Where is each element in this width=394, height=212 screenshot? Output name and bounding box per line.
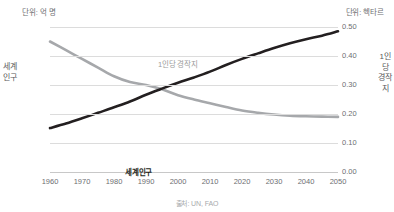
gridline xyxy=(50,27,338,28)
right-axis-tick: 0.40 xyxy=(342,51,372,60)
right-axis-title: 1인당 경작지 xyxy=(378,52,392,94)
x-axis-tick: 2030 xyxy=(257,177,291,186)
x-axis-tick: 2050 xyxy=(321,177,355,186)
x-axis-tick: 2040 xyxy=(289,177,323,186)
x-axis-tick: 1980 xyxy=(97,177,131,186)
gridline xyxy=(50,114,338,115)
right-axis-tick: 0.50 xyxy=(342,22,372,31)
x-axis-tick: 1970 xyxy=(65,177,99,186)
chart-container: 단위: 억 명 단위: 헥타르 세계인구 1인당 경작지 02040608010… xyxy=(0,0,394,212)
gridline xyxy=(50,56,338,57)
arable-land-series-label: 1인당 경작지 xyxy=(158,58,198,69)
source-note: 출처: UN, FAO xyxy=(0,198,394,208)
right-axis-tick: 0.10 xyxy=(342,138,372,147)
x-axis-tick: 1990 xyxy=(129,177,163,186)
x-axis-tick: 2010 xyxy=(193,177,227,186)
gridline xyxy=(50,85,338,86)
series-lines xyxy=(50,27,338,172)
plot-area: 020406080100 0.000.100.200.300.400.50 19… xyxy=(50,27,338,172)
gridline xyxy=(50,172,338,173)
x-axis-tick: 2000 xyxy=(161,177,195,186)
x-axis-tick: 2020 xyxy=(225,177,259,186)
arable-land-line xyxy=(50,42,338,117)
right-axis-tick: 0.20 xyxy=(342,109,372,118)
right-axis-tick: 0.00 xyxy=(342,167,372,176)
gridline xyxy=(50,143,338,144)
right-axis-unit-label: 단위: 헥타르 xyxy=(346,6,384,17)
left-axis-title: 세계인구 xyxy=(3,62,17,83)
world-population-series-label: 세계인구 xyxy=(125,166,152,177)
x-axis-tick: 1960 xyxy=(33,177,67,186)
left-axis-unit-label: 단위: 억 명 xyxy=(22,6,56,17)
right-axis-tick: 0.30 xyxy=(342,80,372,89)
